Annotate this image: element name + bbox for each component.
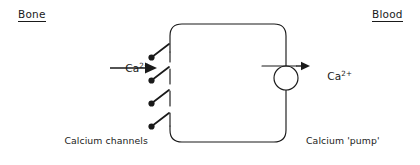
ion-label-efflux: Ca2+ bbox=[313, 58, 352, 95]
calcium-channel-group bbox=[148, 44, 169, 130]
diagram-canvas: Bone Blood Ca2+ Ca2+ Calcium channels op… bbox=[0, 0, 420, 165]
calcium-channel-3 bbox=[148, 90, 169, 107]
cell-membrane-outline bbox=[170, 24, 286, 142]
caption-calcium-channels: Calcium channels opened by parathyroid h… bbox=[8, 112, 148, 165]
calcium-channel-4 bbox=[148, 113, 169, 130]
caption-calcium-pump: Calcium 'pump' depends on vitamin D bbox=[306, 112, 416, 165]
calcium-channel-1 bbox=[148, 44, 169, 61]
caption-line: Calcium channels bbox=[8, 135, 148, 146]
ion-influx-symbol: Ca bbox=[125, 62, 139, 74]
calcium-pump-circle bbox=[274, 66, 298, 90]
ion-efflux-symbol: Ca bbox=[327, 70, 341, 82]
calcium-pump bbox=[262, 66, 298, 90]
caption-line: Calcium 'pump' bbox=[306, 135, 416, 146]
calcium-efflux-arrow bbox=[296, 62, 310, 70]
ion-efflux-charge: 2+ bbox=[341, 69, 352, 78]
ion-label-influx: Ca2+ bbox=[111, 50, 150, 87]
ion-influx-charge: 2+ bbox=[139, 61, 150, 70]
region-label-blood: Blood bbox=[372, 8, 403, 22]
region-label-bone: Bone bbox=[18, 8, 46, 22]
